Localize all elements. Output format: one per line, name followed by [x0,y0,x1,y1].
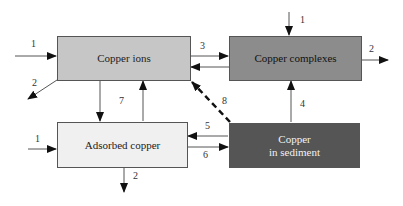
edge-label-adsorbed-to-sediment: 6 [203,149,208,160]
node-label: Copper complexes [254,52,336,65]
edge-label-adsorbed-out: 2 [133,170,138,181]
edge-label-sediment-to-adsorbed: 5 [205,120,210,131]
edge-label-ions-in: 1 [31,38,36,49]
edge-label-sediment-to-complexes: 4 [300,98,305,109]
diagram-arrows [0,0,403,206]
node-copper-complexes: Copper complexes [229,36,362,81]
edge-label-ions-adsorbed: 7 [119,95,124,106]
node-copper-in-sediment: Copper in sediment [229,123,360,168]
edge-label-adsorbed-in: 1 [35,133,40,144]
edge-label-sediment-to-ions: 8 [222,95,227,106]
edge-label-complexes-out: 2 [369,43,374,54]
node-label-line1: Copper [278,133,310,146]
edge-label-ions-out: 2 [32,77,37,88]
node-label: Adsorbed copper [85,139,160,152]
node-label: Copper ions [97,52,150,65]
edge-label-ions-to-complexes: 3 [200,40,205,51]
node-label-line2: in sediment [269,146,320,159]
node-copper-ions: Copper ions [57,36,191,81]
edge-label-complexes-in: 1 [300,14,305,25]
node-adsorbed-copper: Adsorbed copper [57,122,188,168]
